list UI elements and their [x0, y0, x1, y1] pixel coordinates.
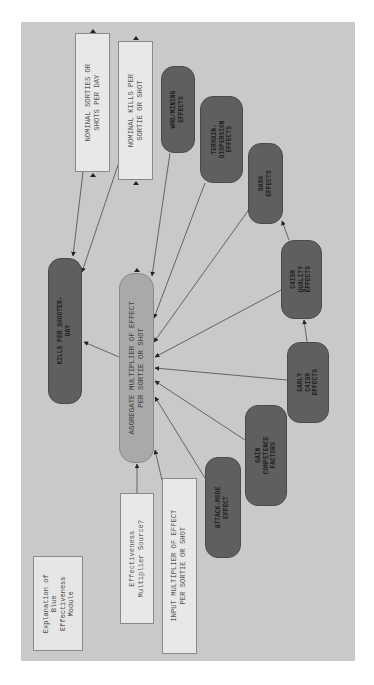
node-label: Effectiveness Multiplier Source? — [128, 520, 145, 598]
node-label: EARLY C4ISR EFFECTS — [297, 369, 320, 395]
node-label: NOMINAL SORTIES OR SHOTS PER DAY — [84, 64, 101, 142]
node-nominal-kills[interactable]: NOMINAL KILLS PER SORTIE OR SHOT — [118, 41, 153, 180]
arrow-tick-nomkills-bottom — [133, 181, 139, 185]
node-label: WMD/MINING EFFECTS — [170, 91, 185, 129]
node-multiplier-source[interactable]: Effectiveness Multiplier Source? — [120, 493, 154, 624]
node-label: DASH EFFECTS — [258, 170, 273, 196]
node-gain-competence[interactable]: GAIN COMPETENCE FACTORS — [245, 405, 287, 506]
node-label: AGGREGATE MULTIPLIER OF EFFECT PER SORTI… — [128, 301, 146, 434]
node-nominal-sorties[interactable]: NOMINAL SORTIES OR SHOTS PER DAY — [75, 33, 110, 172]
node-aggregate-multiplier[interactable]: AGGREGATE MULTIPLIER OF EFFECT PER SORTI… — [119, 273, 154, 463]
node-label: TERRAIN- DISPERSION EFFECTS — [210, 121, 233, 159]
node-label: GAIN COMPETENCE FACTORS — [255, 437, 278, 475]
diagram-title: Explanation of Blue Effectiveness Module — [41, 574, 75, 633]
node-terrain-dispersion[interactable]: TERRAIN- DISPERSION EFFECTS — [200, 96, 243, 183]
diagram-title-note: Explanation of Blue Effectiveness Module — [33, 556, 83, 651]
node-label: KILLS PER SHOOTER- DAY — [57, 297, 72, 365]
node-input-multiplier[interactable]: INPUT MULTIPLIER OF EFFECT PER SORTIE OR… — [162, 478, 197, 654]
arrow-tick-nomkills-top — [133, 36, 139, 40]
node-dash[interactable]: DASH EFFECTS — [248, 143, 283, 224]
node-c4isr-quality[interactable]: C4ISR QUALITY EFFECTS — [281, 240, 322, 319]
node-label: C4ISR QUALITY EFFECTS — [290, 266, 313, 292]
node-attack-mode[interactable]: ATTACK-MODE EFFECT — [205, 457, 241, 558]
node-label: ATTACK-MODE EFFECT — [215, 487, 230, 529]
node-label: INPUT MULTIPLIER OF EFFECT PER SORTIE OR… — [171, 510, 188, 622]
node-early-c4isr[interactable]: EARLY C4ISR EFFECTS — [287, 342, 329, 423]
node-wmd-mining[interactable]: WMD/MINING EFFECTS — [161, 66, 195, 153]
arrow-tick-aggregate-top — [134, 268, 140, 272]
node-kills-per-shooter-day[interactable]: KILLS PER SHOOTER- DAY — [48, 258, 82, 404]
arrow-tick-sorties-bottom — [90, 173, 96, 177]
node-label: NOMINAL KILLS PER SORTIE OR SHOT — [127, 74, 144, 147]
